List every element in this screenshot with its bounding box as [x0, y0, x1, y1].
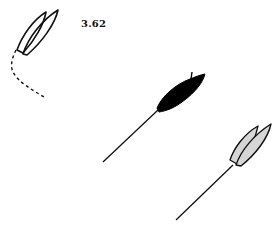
- boat-2-trail: [103, 110, 158, 162]
- boat-1-dashed-trail: [12, 50, 46, 98]
- boat-2-hull: [157, 74, 205, 112]
- diagram-canvas: [0, 0, 279, 231]
- boat-1-hull-a: [17, 12, 46, 53]
- boat-1-outline: [17, 10, 58, 55]
- boat-2-mast-mark: [191, 72, 192, 79]
- boat-2-solid: [103, 72, 205, 162]
- boat-3-trail: [176, 165, 233, 220]
- figure-label: 3.62: [81, 18, 106, 29]
- boat-3-gray: [176, 124, 271, 220]
